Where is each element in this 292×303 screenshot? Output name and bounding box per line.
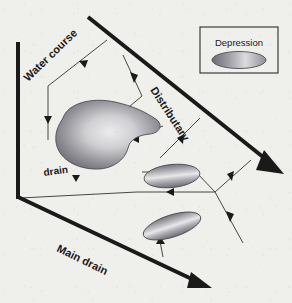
legend-depression-symbol bbox=[212, 52, 266, 69]
legend: Depression bbox=[200, 27, 278, 73]
irrigation-drainage-diagram: Water course Distributary drain Main dra… bbox=[0, 0, 292, 303]
legend-title: Depression bbox=[215, 37, 263, 48]
diagram-canvas: Water course Distributary drain Main dra… bbox=[0, 0, 292, 303]
